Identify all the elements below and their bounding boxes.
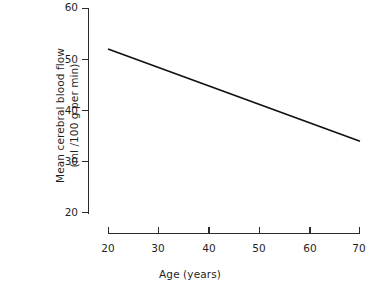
x-axis-title: Age (years) [0,268,380,280]
x-axis-tick-labels: 20 30 40 50 60 70 [101,242,365,254]
x-axis-ticks [109,227,360,233]
x-tick-label-50: 50 [252,242,265,254]
y-tick-label-40: 40 [65,104,78,116]
x-tick-label-30: 30 [151,242,164,254]
y-axis-tick-labels: 60 50 40 30 20 [65,1,78,218]
data-line-mean-cerebral-blood-flow [108,49,360,141]
x-tick-label-20: 20 [101,242,114,254]
y-axis-ticks [82,9,88,213]
x-tick-label-40: 40 [202,242,215,254]
chart-figure: Mean cerebral blood flow (ml /100 g per … [0,0,380,303]
y-tick-label-30: 30 [65,155,78,167]
y-tick-label-20: 20 [65,206,78,218]
y-tick-label-60: 60 [65,1,78,13]
plot-area: 60 50 40 30 20 20 30 40 50 60 70 [0,0,380,303]
x-tick-label-60: 60 [303,242,316,254]
x-tick-label-70: 70 [352,242,365,254]
y-tick-label-50: 50 [65,53,78,65]
